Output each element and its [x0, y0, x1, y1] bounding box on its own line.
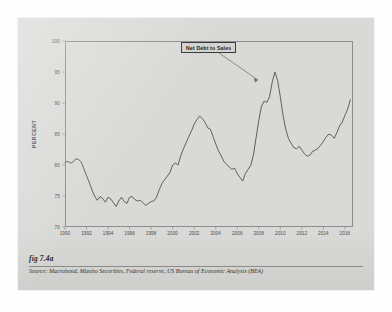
x-tick-label: 1998	[140, 231, 162, 236]
x-tick-label: 2000	[162, 231, 184, 236]
caption-divider	[29, 266, 363, 267]
x-tick-label: 1990	[54, 231, 76, 236]
y-tick-label: 70	[44, 225, 60, 230]
screenshot-root: PERCENT Net Debt to Sales 10095908580757…	[0, 0, 392, 312]
x-tick-label: 1994	[97, 231, 119, 236]
figure-caption: fig 7.4a	[29, 254, 54, 263]
x-tick-label: 2006	[226, 231, 248, 236]
x-tick-label: 1996	[119, 231, 141, 236]
annotation-arrow	[219, 53, 258, 82]
data-line-net-debt-to-sales	[65, 72, 350, 207]
x-tick-label: 2002	[183, 231, 205, 236]
chart-container: PERCENT Net Debt to Sales 10095908580757…	[29, 23, 365, 255]
x-tick-label: 2014	[312, 231, 334, 236]
x-tick-label: 1992	[76, 231, 98, 236]
y-tick-label: 75	[44, 194, 60, 199]
x-tick-marks	[65, 227, 345, 230]
figure-source: Source: Macrobond, Mizuho Securities, Fe…	[29, 268, 363, 274]
figure-card: PERCENT Net Debt to Sales 10095908580757…	[18, 18, 374, 290]
y-tick-label: 100	[44, 39, 60, 44]
y-tick-label: 80	[44, 163, 60, 168]
x-tick-label: 2016	[334, 231, 356, 236]
y-tick-marks	[63, 41, 66, 227]
x-tick-label: 2010	[269, 231, 291, 236]
y-tick-label: 85	[44, 132, 60, 137]
x-tick-label: 2004	[205, 231, 227, 236]
chart-svg	[29, 23, 365, 255]
y-tick-label: 90	[44, 101, 60, 106]
x-tick-label: 2012	[291, 231, 313, 236]
y-tick-label: 95	[44, 70, 60, 75]
x-tick-label: 2008	[248, 231, 270, 236]
